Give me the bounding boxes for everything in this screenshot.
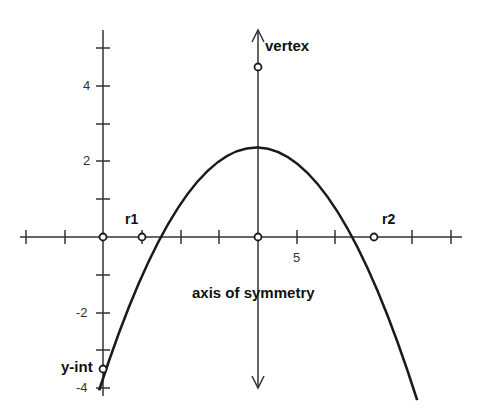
key-points (100, 64, 378, 373)
axis-of-symmetry-line (252, 30, 264, 388)
r2-label: r2 (382, 211, 395, 227)
y-tick-label-4: 4 (83, 78, 90, 93)
r2-point (371, 234, 378, 241)
vertex-point (255, 64, 262, 71)
y-tick-label-2: 2 (83, 153, 90, 168)
r1-label: r1 (125, 211, 138, 227)
y-tick-label-neg4: -4 (76, 380, 88, 395)
origin-point (100, 234, 107, 241)
r1-point (139, 234, 146, 241)
graph-canvas (0, 0, 483, 419)
y-intercept-label: y-int (61, 358, 93, 375)
axis-intersection-point (255, 234, 262, 241)
axis-of-symmetry-label: axis of symmetry (192, 284, 315, 301)
parabola-diagram: 4 2 -2 -4 5 vertex r1 r2 axis of symmetr… (0, 0, 483, 419)
vertex-label: vertex (265, 37, 309, 54)
y-intercept-point (100, 366, 107, 373)
x-tick-label-5: 5 (293, 250, 300, 265)
y-tick-label-neg2: -2 (76, 305, 88, 320)
